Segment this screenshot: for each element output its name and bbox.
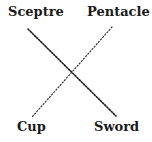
line-pentacle-cup [32,27,112,117]
label-pentacle: Pentacle [87,5,150,18]
label-sword: Sword [94,120,139,133]
label-cup: Cup [17,120,46,133]
label-sceptre: Sceptre [8,5,64,18]
